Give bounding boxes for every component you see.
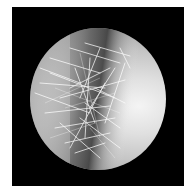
crystal-needles [30,28,166,170]
microscope-field [30,28,166,170]
